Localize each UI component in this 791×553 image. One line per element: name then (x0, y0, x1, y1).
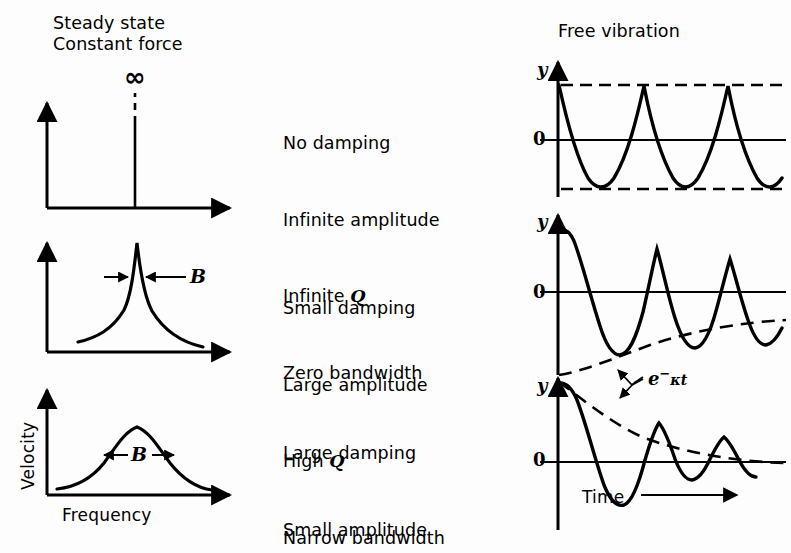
envelope-exponent-sign: − (659, 366, 670, 381)
figure-canvas: Steady state Constant force Free vibrati… (0, 0, 791, 553)
description-line: Small amplitude (283, 518, 427, 544)
plot-steady-state-small-damping (47, 243, 230, 352)
y-axis-label-middle: y (537, 211, 547, 232)
velocity-axis-label: Velocity (18, 422, 38, 490)
infinity-symbol: ∞ (124, 62, 146, 92)
envelope-leader-upper (618, 370, 632, 385)
plot-free-vibration-undamped (540, 62, 786, 197)
steady-state-heading-line2: Constant force (53, 34, 183, 54)
description-line: No damping (283, 131, 440, 157)
zero-label-middle: 0 (533, 281, 546, 302)
envelope-leader-join-a (634, 377, 643, 383)
bandwidth-label-narrow: B (190, 265, 206, 287)
zero-label-bottom: 0 (533, 449, 546, 470)
steady-state-heading-line1: Steady state (53, 13, 165, 33)
description-line: Small damping (283, 296, 445, 322)
plot-free-vibration-small-damping (540, 215, 786, 385)
bandwidth-label-broad: B (131, 443, 147, 465)
y-axis-label-bottom: y (537, 375, 547, 396)
envelope-base: e (648, 368, 659, 389)
description-line: Infinite amplitude (283, 208, 440, 234)
envelope-exponent: κt (670, 372, 687, 388)
plot-free-vibration-large-damping (540, 377, 786, 530)
waveform-small-damping (560, 229, 782, 355)
envelope-leader-join-b (632, 379, 643, 385)
description-line: Large damping (283, 441, 427, 467)
plot-steady-state-undamped (47, 93, 230, 208)
envelope-exponential-dashed (559, 382, 786, 463)
envelope-leader-lower (620, 383, 634, 398)
time-axis-label: Time (582, 487, 624, 507)
zero-label-top: 0 (533, 128, 546, 149)
frequency-axis-label: Frequency (62, 505, 152, 525)
exponential-envelope-label: e−κt (648, 366, 687, 389)
y-axis-label-top: y (537, 59, 547, 80)
resonance-curve-narrow (78, 243, 203, 347)
waveform-undamped (559, 85, 782, 187)
free-vibration-heading: Free vibration (558, 21, 680, 41)
description-block-large-damping: Large damping Small amplitude Low Q Wide… (283, 390, 427, 553)
